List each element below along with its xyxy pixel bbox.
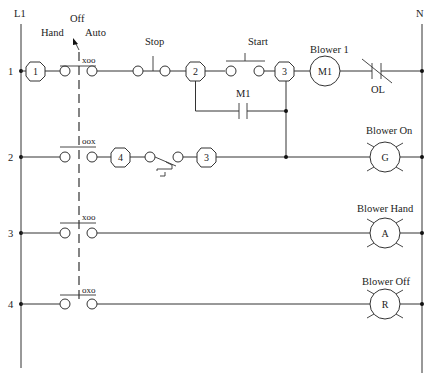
svg-text:M1: M1 <box>318 66 332 77</box>
wire-number-3: 3 <box>275 62 294 81</box>
rung-3: 3 xoo Blower Hand A <box>8 203 424 248</box>
right-rail-label: N <box>416 8 424 19</box>
svg-text:R: R <box>382 299 389 310</box>
pilot-light-amber: Blower Hand A <box>357 203 414 248</box>
wire-number-2: 2 <box>186 62 205 81</box>
wire-number-3b: 3 <box>197 148 216 167</box>
svg-text:3: 3 <box>204 152 209 163</box>
rung-number: 2 <box>8 152 13 163</box>
svg-text:4: 4 <box>118 152 123 163</box>
rung-2: 2 oox 4 3 Blower On <box>8 125 424 176</box>
svg-text:Blower 1: Blower 1 <box>310 44 349 55</box>
rung-4: 4 oxo Blower Off R <box>8 276 424 319</box>
seal-in-contact-m1: M1 <box>196 81 289 157</box>
svg-text:Blower On: Blower On <box>366 125 413 136</box>
svg-text:xoo: xoo <box>82 212 96 222</box>
selector-auto-label: Auto <box>85 27 106 38</box>
svg-text:M1: M1 <box>236 88 251 99</box>
svg-text:oxo: oxo <box>82 285 96 295</box>
svg-text:Blower Off: Blower Off <box>362 276 410 287</box>
start-pushbutton: Start <box>226 36 268 76</box>
motor-coil-m1: Blower 1 M1 <box>310 44 349 86</box>
svg-text:Stop: Stop <box>145 36 164 47</box>
float-switch <box>145 152 183 176</box>
selector-arrow-icon <box>73 38 79 50</box>
svg-text:Blower Hand: Blower Hand <box>357 203 414 214</box>
svg-text:G: G <box>381 152 388 163</box>
overload-contact: OL <box>362 59 392 95</box>
svg-text:Start: Start <box>248 36 268 47</box>
svg-text:OL: OL <box>371 84 385 95</box>
rung-number: 1 <box>8 66 13 77</box>
selector-hand-label: Hand <box>41 27 64 38</box>
selector-off-label: Off <box>70 13 85 24</box>
svg-text:xoo: xoo <box>82 55 96 65</box>
svg-text:2: 2 <box>193 66 198 77</box>
ladder-diagram: L1 N Hand Off Auto 1 1 xoo Stop <box>0 0 433 382</box>
rung-number: 4 <box>8 299 14 310</box>
svg-text:oox: oox <box>82 136 96 146</box>
svg-text:1: 1 <box>33 66 38 77</box>
stop-pushbutton: Stop <box>133 36 170 76</box>
pilot-light-green: Blower On G <box>366 125 413 172</box>
wire-number-4: 4 <box>111 148 130 167</box>
svg-text:3: 3 <box>282 66 287 77</box>
pilot-light-red: Blower Off R <box>362 276 410 319</box>
rung-1: 1 1 xoo Stop 2 <box>8 36 424 157</box>
svg-text:A: A <box>381 228 389 239</box>
rung-number: 3 <box>8 228 13 239</box>
wire-number-1: 1 <box>26 62 45 81</box>
left-rail-label: L1 <box>14 8 26 19</box>
